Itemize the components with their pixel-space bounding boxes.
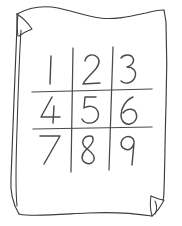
sketch-canvas: A hand-drawn sheet of paper with folded … bbox=[0, 0, 182, 226]
digit-glyph-1 bbox=[50, 56, 51, 84]
paper-sketch-svg bbox=[0, 0, 182, 226]
sheet-of-paper bbox=[11, 7, 167, 218]
paper-surface bbox=[11, 8, 167, 218]
grid-cell-r0c0 bbox=[50, 56, 51, 84]
